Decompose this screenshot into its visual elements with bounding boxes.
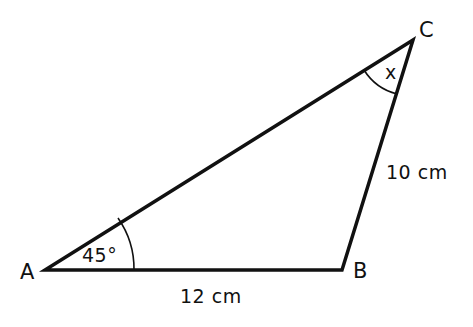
side-label-bc: 10 cm bbox=[386, 161, 448, 183]
triangle-abc bbox=[45, 40, 413, 270]
triangle-diagram: A B C 45° x 12 cm 10 cm bbox=[0, 0, 473, 327]
vertex-label-c: C bbox=[419, 18, 434, 42]
side-label-ab: 12 cm bbox=[180, 285, 242, 307]
angle-label-c: x bbox=[385, 61, 397, 83]
angle-arc-a bbox=[118, 218, 134, 270]
angle-label-a: 45° bbox=[82, 244, 117, 266]
vertex-label-a: A bbox=[20, 260, 34, 284]
vertex-label-b: B bbox=[353, 259, 367, 283]
